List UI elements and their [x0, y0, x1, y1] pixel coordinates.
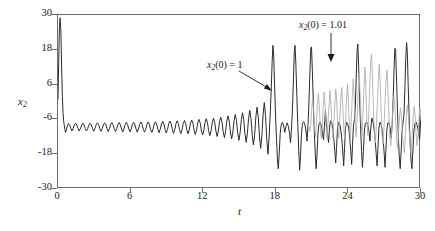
y-tick-label: 6: [18, 78, 52, 89]
annotation-arrow-1: [238, 70, 274, 92]
y-tick-mark: [51, 188, 57, 189]
annotation-ic-2-rest: (0) = 1.01: [307, 19, 347, 30]
x-tick-label: 0: [42, 191, 72, 202]
y-tick-label: 30: [18, 8, 52, 19]
plot-area: [57, 14, 420, 188]
annotation-ic-1-rest: (0) = 1: [215, 59, 242, 70]
figure-chaotic-trajectories: x2 t -30-18-661830 0612182430 x2(0) = 1 …: [0, 0, 435, 231]
y-axis-label-subscript: 2: [23, 100, 27, 109]
y-tick-label: -18: [18, 147, 52, 158]
annotation-ic-2: x2(0) = 1.01: [299, 19, 347, 32]
y-tick-label: -6: [18, 112, 52, 123]
annotation-arrow-2: [325, 33, 337, 63]
y-tick-label: 18: [18, 43, 52, 54]
y-axis-label: x2: [18, 95, 27, 109]
trajectory-plot: [58, 15, 421, 189]
trajectory-line: [58, 18, 421, 170]
x-axis-label: t: [238, 205, 241, 217]
